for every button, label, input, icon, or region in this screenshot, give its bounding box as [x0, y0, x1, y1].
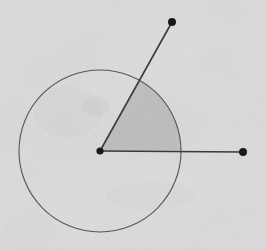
- right-ray: [100, 151, 243, 152]
- angle-figure: [0, 0, 266, 249]
- diagram-canvas: Angle with shaded sector inscribed in a …: [0, 0, 266, 249]
- shaded-angle-sector: [100, 80, 181, 151]
- upper-ray-endpoint-dot: [168, 18, 176, 26]
- angle-vertex-dot: [96, 147, 103, 154]
- right-ray-endpoint-dot: [239, 148, 247, 156]
